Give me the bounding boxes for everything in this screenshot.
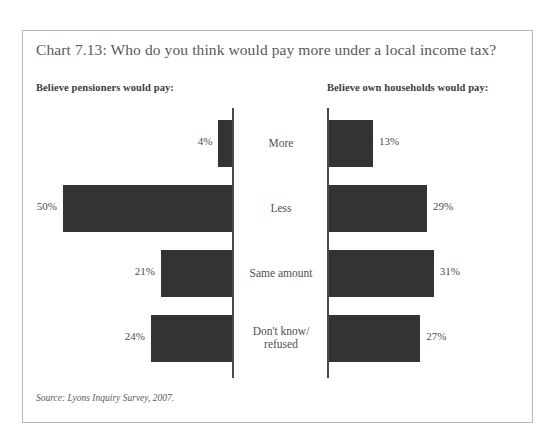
- source-note: Source: Lyons Inquiry Survey, 2007.: [36, 393, 174, 403]
- bar-right-less: [329, 185, 427, 232]
- value-label-left: 21%: [135, 265, 155, 277]
- category-label: More: [235, 137, 327, 151]
- plot-area: 4%13%More50%29%Less21%31%Same amount24%2…: [0, 0, 555, 444]
- bar-left-more: [218, 120, 232, 167]
- chart-row: 21%31%Same amount: [0, 250, 555, 297]
- category-label: Same amount: [235, 267, 327, 281]
- category-label: Don't know/refused: [235, 325, 327, 352]
- bar-right-same-amount: [329, 250, 434, 297]
- chart-row: 50%29%Less: [0, 185, 555, 232]
- value-label-left: 50%: [37, 200, 57, 212]
- value-label-right: 31%: [440, 265, 460, 277]
- chart-page: Chart 7.13: Who do you think would pay m…: [0, 0, 555, 444]
- value-label-left: 24%: [125, 330, 145, 342]
- bar-left-same-amount: [161, 250, 232, 297]
- bar-left-don-t-know-refused: [151, 315, 232, 362]
- bar-left-less: [63, 185, 232, 232]
- chart-row: 4%13%More: [0, 120, 555, 167]
- value-label-right: 27%: [426, 330, 446, 342]
- value-label-right: 29%: [433, 200, 453, 212]
- bar-right-don-t-know-refused: [329, 315, 420, 362]
- value-label-right: 13%: [379, 135, 399, 147]
- chart-row: 24%27%Don't know/refused: [0, 315, 555, 362]
- bar-right-more: [329, 120, 373, 167]
- category-label: Less: [235, 202, 327, 216]
- value-label-left: 4%: [198, 135, 213, 147]
